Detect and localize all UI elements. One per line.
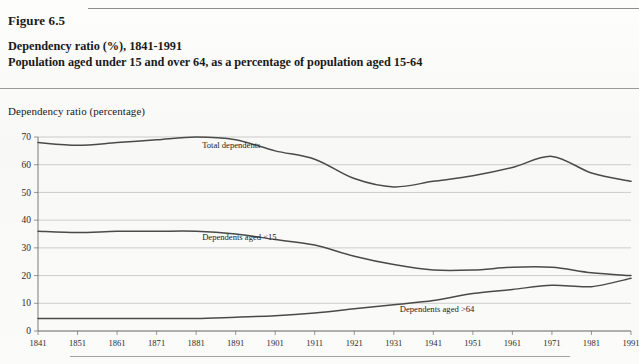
x-tick-label-1951: 1951 — [464, 338, 481, 348]
x-tick-label-1881: 1881 — [188, 338, 205, 348]
x-axis-tick-labels: 1841185118611871188118911901191119211931… — [29, 338, 639, 348]
x-tick-label-1941: 1941 — [425, 338, 442, 348]
y-tick-label-20: 20 — [22, 271, 32, 281]
x-tick-label-1901: 1901 — [267, 338, 284, 348]
x-tick-label-1871: 1871 — [148, 338, 165, 348]
x-tick-label-1861: 1861 — [108, 338, 125, 348]
series-annotations: Total dependentsDependents aged <15Depen… — [202, 140, 475, 314]
x-tick-label-1891: 1891 — [227, 338, 244, 348]
x-tick-label-1931: 1931 — [385, 338, 402, 348]
dependency-ratio-line-chart: 010203040506070 184118511861187118811891… — [0, 0, 639, 364]
series-label-dependents-aged-15: Dependents aged <15 — [202, 232, 277, 242]
y-tick-label-50: 50 — [22, 188, 32, 198]
footer-rule — [70, 356, 570, 357]
y-tick-label-0: 0 — [26, 326, 31, 336]
chart-area: 010203040506070 184118511861187118811891… — [0, 0, 639, 364]
x-tick-label-1911: 1911 — [306, 338, 323, 348]
series-label-total-dependents: Total dependents — [202, 140, 261, 150]
y-tick-label-10: 10 — [22, 298, 32, 308]
x-tick-label-1971: 1971 — [543, 338, 560, 348]
x-tick-label-1921: 1921 — [346, 338, 363, 348]
series-line-dependents-aged-64 — [38, 278, 631, 318]
x-tick-label-1981: 1981 — [583, 338, 600, 348]
x-tick-label-1991: 1991 — [622, 338, 639, 348]
y-tick-label-60: 60 — [22, 160, 32, 170]
x-tick-label-1841: 1841 — [29, 338, 46, 348]
gridlines — [34, 137, 631, 331]
x-tick-label-1961: 1961 — [504, 338, 521, 348]
y-axis-tick-labels: 010203040506070 — [22, 132, 32, 336]
x-tick-label-1851: 1851 — [69, 338, 86, 348]
data-series — [38, 137, 631, 319]
x-axis-tick-marks — [38, 331, 631, 335]
figure-page: Figure 6.5 Dependency ratio (%), 1841-19… — [0, 0, 639, 364]
series-label-dependents-aged-64: Dependents aged >64 — [400, 304, 475, 314]
series-line-total-dependents — [38, 137, 631, 187]
y-tick-label-40: 40 — [22, 215, 32, 225]
y-tick-label-30: 30 — [22, 243, 32, 253]
y-tick-label-70: 70 — [22, 132, 32, 142]
series-line-dependents-aged-15 — [38, 231, 631, 276]
